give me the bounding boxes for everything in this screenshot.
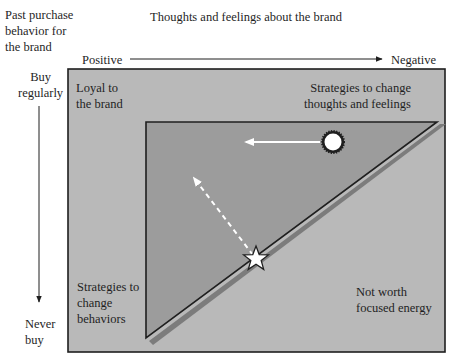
- y-axis-label-buy-regularly: Buy regularly: [18, 69, 63, 101]
- y-axis-label-never-buy: Never buy: [25, 316, 56, 348]
- quadrant-label-not-worth: Not worth focused energy: [356, 284, 432, 316]
- quadrant-label-loyal: Loyal to the brand: [76, 80, 123, 112]
- x-axis-label-positive: Positive: [82, 52, 122, 68]
- x-axis-title: Thoughts and feelings about the brand: [150, 9, 342, 25]
- quadrant-label-change-thoughts: Strategies to change thoughts and feelin…: [304, 80, 411, 112]
- quadrant-label-change-behaviors: Strategies to change behaviors: [77, 279, 139, 327]
- x-axis-label-negative: Negative: [391, 52, 436, 68]
- sun-marker-icon: [322, 131, 344, 153]
- y-axis-title: Past purchase behavior for the brand: [5, 7, 73, 55]
